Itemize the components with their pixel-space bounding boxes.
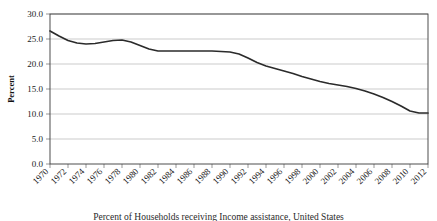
- x-tick-label: 2008: [373, 166, 393, 186]
- x-tick-label: 1996: [265, 166, 285, 186]
- y-tick-label: 5.0: [32, 134, 44, 144]
- x-tick-label: 1992: [229, 166, 249, 186]
- x-tick-label: 2012: [409, 166, 429, 186]
- x-tick-label: 1998: [283, 166, 303, 186]
- x-tick-label: 1984: [157, 166, 177, 186]
- line-chart: 30.0 25.0 20.0 15.0 10.0 5.0 0.0 Percent…: [0, 0, 437, 221]
- x-tick-label: 1978: [103, 166, 123, 186]
- x-tick-label: 2000: [301, 166, 321, 186]
- x-tick-label: 1976: [85, 166, 105, 186]
- x-tick-label: 2002: [319, 166, 339, 186]
- x-tick-label: 1994: [247, 166, 267, 186]
- x-tick-label: 1990: [211, 166, 231, 186]
- x-tick-label: 1972: [49, 166, 69, 186]
- y-tick-label: 20.0: [27, 59, 43, 69]
- y-axis-title: Percent: [6, 75, 16, 103]
- x-tick-label: 1974: [67, 166, 87, 186]
- y-tickmarks: [46, 14, 50, 164]
- figure-caption: Percent of Households receiving Income a…: [0, 212, 437, 221]
- x-tick-label: 1982: [139, 166, 159, 186]
- y-tick-label: 15.0: [27, 84, 43, 94]
- x-tick-label: 1986: [175, 166, 195, 186]
- x-tick-label: 1980: [121, 166, 141, 186]
- x-tick-label: 2004: [337, 166, 357, 186]
- x-tick-label: 1970: [31, 166, 51, 186]
- y-tick-label: 25.0: [27, 34, 43, 44]
- x-axis-tick-labels: 1970197219741976197819801982198419861988…: [31, 166, 429, 186]
- figure-container: 30.0 25.0 20.0 15.0 10.0 5.0 0.0 Percent…: [0, 0, 437, 221]
- y-axis-tick-labels: 30.0 25.0 20.0 15.0 10.0 5.0 0.0: [27, 9, 43, 169]
- x-tick-label: 2010: [391, 166, 411, 186]
- y-tick-label: 30.0: [27, 9, 43, 19]
- y-tick-label: 10.0: [27, 109, 43, 119]
- x-tick-label: 1988: [193, 166, 213, 186]
- x-tick-label: 2006: [355, 166, 375, 186]
